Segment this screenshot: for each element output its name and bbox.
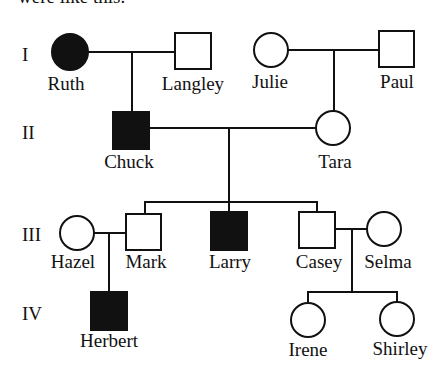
generation-label-ii: II (22, 122, 35, 143)
unaffected-female-icon (380, 302, 414, 336)
name-label: Chuck (104, 151, 154, 172)
individual-julie: Julie (252, 33, 288, 92)
individual-langley: Langley (162, 33, 225, 94)
unaffected-male-icon (126, 214, 161, 250)
unaffected-female-icon (291, 303, 325, 337)
unaffected-male-icon (379, 31, 414, 67)
name-label: Julie (252, 71, 288, 92)
generation-label-i: I (22, 44, 28, 65)
name-label: Selma (364, 251, 412, 272)
name-label: Larry (209, 251, 252, 272)
individual-larry: Larry (209, 212, 252, 272)
name-label: Mark (125, 251, 167, 272)
clipped-header-text: were like this: (18, 0, 126, 7)
affected-male-icon (211, 212, 247, 250)
affected-male-icon (113, 112, 149, 149)
affected-female-icon (52, 34, 88, 70)
name-label: Hazel (51, 251, 95, 272)
individual-shirley: Shirley (373, 302, 428, 359)
affected-male-icon (91, 292, 127, 330)
individual-tara: Tara (316, 111, 352, 172)
individual-hazel: Hazel (51, 216, 95, 272)
name-label: Irene (288, 339, 327, 360)
individual-irene: Irene (288, 303, 327, 360)
name-label: Casey (296, 251, 343, 272)
individual-chuck: Chuck (104, 112, 154, 172)
individual-herbert: Herbert (80, 292, 139, 351)
name-label: Paul (380, 71, 414, 92)
name-label: Tara (318, 151, 352, 172)
unaffected-female-icon (60, 216, 94, 250)
generation-label-iv: IV (22, 303, 42, 324)
unaffected-female-icon (316, 111, 350, 145)
name-label: Herbert (80, 330, 139, 351)
pedigree-svg: were like this: I II III IV R (0, 0, 434, 375)
unaffected-female-icon (254, 33, 288, 67)
pedigree-chart: were like this: I II III IV R (0, 0, 434, 375)
generation-label-iii: III (22, 224, 41, 245)
name-label: Ruth (48, 73, 85, 94)
name-label: Langley (162, 73, 225, 94)
unaffected-male-icon (299, 212, 335, 248)
individual-ruth: Ruth (48, 34, 88, 94)
unaffected-female-icon (367, 212, 401, 246)
name-label: Shirley (373, 338, 428, 359)
individual-selma: Selma (364, 212, 412, 272)
unaffected-male-icon (175, 33, 211, 69)
individual-mark: Mark (125, 214, 167, 272)
individual-paul: Paul (379, 31, 414, 92)
individual-casey: Casey (296, 212, 343, 272)
